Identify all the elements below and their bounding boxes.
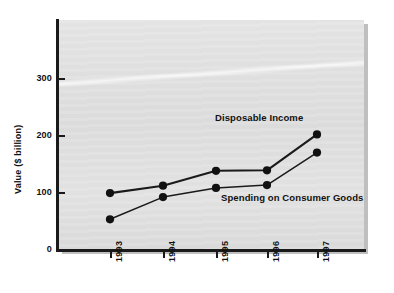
data-point-1997 [313,130,321,138]
chart-container: 300 200 100 0 Value ($ billion) 1993 199… [0,0,394,293]
series-label-disposable-income: Disposable Income [215,112,303,123]
data-point-1997 [313,149,321,157]
series-label-spending-on-consumer-goods: Spending on Consumer Goods [221,192,363,203]
data-point-1993 [106,215,114,223]
data-point-1993 [106,189,114,197]
data-point-1995 [212,167,220,175]
data-point-1996 [263,166,271,174]
data-point-1996 [263,181,271,189]
series-layer [0,0,394,293]
data-point-1995 [212,184,220,192]
data-point-1994 [159,193,167,201]
data-point-1994 [159,182,167,190]
series-line-disposable-income [110,134,317,193]
